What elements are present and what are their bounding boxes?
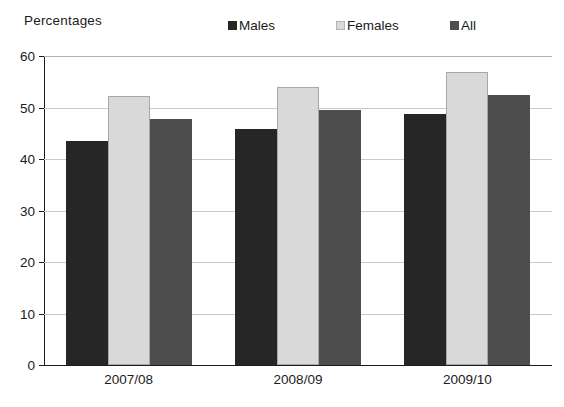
y-axis-tick-label: 50 [20,100,35,115]
x-axis-label-2009-10: 2009/10 [443,372,492,387]
y-axis-tick [39,365,44,366]
legend-label-males: Males [239,18,275,33]
legend-item-all: All [450,18,476,33]
y-axis-tick-label: 0 [27,358,35,373]
y-axis-tick [39,211,44,212]
legend-label-all: All [461,18,476,33]
legend-label-females: Females [347,18,399,33]
y-axis-tick-label: 10 [20,306,35,321]
y-axis-tick-label: 20 [20,255,35,270]
bar-all-2007-08 [150,119,192,365]
legend-item-females: Females [336,18,399,33]
bar-females-2007-08 [108,96,150,365]
y-axis-tick [39,262,44,263]
legend-item-males: Males [228,18,275,33]
y-axis-tick-label: 60 [20,49,35,64]
plot-area: 0102030405060 [44,56,552,365]
y-axis-tick-label: 30 [20,203,35,218]
bar-all-2009-10 [488,95,530,365]
bar-males-2007-08 [66,141,108,365]
bar-all-2008-09 [319,110,361,365]
x-axis-line [44,365,552,366]
y-axis-tick [39,108,44,109]
y-axis-tick-label: 40 [20,152,35,167]
x-axis-tick-labels: 2007/082008/092009/10 [44,372,552,392]
legend-swatch-females [336,21,345,30]
y-axis-caption: Percentages [24,13,102,28]
chart-legend: Males Females All [228,18,528,36]
x-axis-label-2008-09: 2008/09 [274,372,323,387]
bar-chart: Percentages Males Females All 0102030405… [0,0,564,407]
y-axis-tick [39,56,44,57]
y-axis-tick [39,159,44,160]
gridline [44,56,552,57]
bar-males-2008-09 [235,129,277,365]
legend-swatch-males [228,21,237,30]
y-axis-tick [39,314,44,315]
legend-swatch-all [450,21,459,30]
bar-females-2009-10 [446,72,488,365]
bar-females-2008-09 [277,87,319,365]
x-axis-label-2007-08: 2007/08 [104,372,153,387]
bar-males-2009-10 [404,114,446,365]
